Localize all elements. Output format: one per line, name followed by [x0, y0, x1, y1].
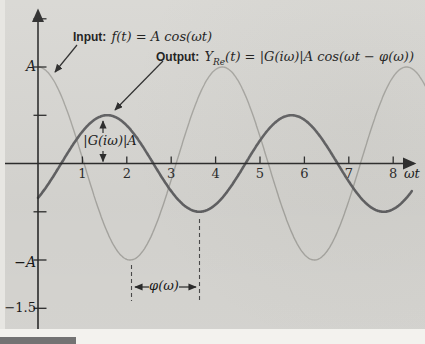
- x-tick-label: 3: [160, 167, 182, 181]
- x-tick-label: 8: [382, 167, 404, 181]
- output-formula-rest: (t) = |G(iω)|A cos(ωt − φ(ω)): [225, 49, 414, 64]
- figure-caption-bar: [0, 337, 76, 344]
- input-formula: f(t) = A cos(ωt): [111, 29, 212, 44]
- x-tick-label: 4: [205, 167, 227, 181]
- x-tick-label: 7: [338, 167, 360, 181]
- output-equation-label: Output: YRe(t) = |G(iω)|A cos(ωt − φ(ω)): [156, 47, 414, 67]
- output-prefix: Output:: [156, 50, 199, 64]
- y-tick-label-plus-A: A: [14, 59, 36, 74]
- x-axis-label: ωt: [404, 167, 420, 181]
- output-formula: YRe(t) = |G(iω)|A cos(ωt − φ(ω)): [204, 49, 414, 64]
- page-left-edge: [0, 0, 5, 330]
- frequency-response-figure: Input: f(t) = A cos(ωt) Output: YRe(t) =…: [0, 0, 425, 344]
- x-ticks: [82, 157, 393, 164]
- x-tick-label: 2: [116, 167, 138, 181]
- phase-annotation-label: φ(ω): [144, 279, 184, 293]
- input-equation-label: Input: f(t) = A cos(ωt): [73, 27, 212, 45]
- x-tick-label: 6: [293, 167, 315, 181]
- input-prefix: Input:: [73, 30, 106, 44]
- output-formula-y: Y: [204, 49, 213, 64]
- output-callout-arrow: [115, 61, 163, 110]
- input-callout-arrow: [55, 45, 77, 72]
- output-formula-subscript: Re: [213, 57, 225, 67]
- gain-annotation-label: |G(iω)|A: [79, 134, 141, 148]
- y-tick-label-minus-A: −A: [10, 255, 36, 270]
- x-tick-label: 1: [71, 167, 93, 181]
- y-tick-label-minus-1-5: −1.5: [4, 301, 36, 315]
- x-tick-label: 5: [249, 167, 271, 181]
